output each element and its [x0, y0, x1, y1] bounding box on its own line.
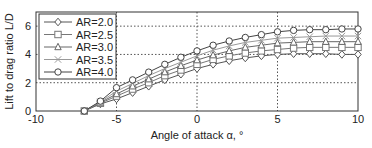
- circle-marker-icon: [55, 69, 61, 75]
- square-marker-icon: [55, 31, 61, 37]
- x-tick-label: 5: [274, 113, 280, 125]
- square-marker-icon: [274, 46, 280, 52]
- circle-marker-icon: [274, 29, 280, 35]
- x-tick-label: -5: [112, 113, 122, 125]
- circle-marker-icon: [81, 108, 87, 114]
- legend: AR=2.0AR=2.5AR=3.0AR=3.5AR=4.0: [39, 14, 116, 79]
- square-marker-icon: [339, 44, 345, 50]
- circle-marker-icon: [210, 42, 216, 48]
- legend-label: AR=3.0: [76, 41, 113, 53]
- square-marker-icon: [242, 50, 248, 56]
- y-tick-label: 0: [25, 105, 31, 117]
- circle-marker-icon: [113, 84, 119, 90]
- y-tick-label: 2: [25, 77, 31, 89]
- circle-marker-icon: [178, 54, 184, 60]
- square-marker-icon: [258, 48, 264, 54]
- circle-marker-icon: [162, 61, 168, 67]
- legend-label: AR=4.0: [76, 66, 113, 78]
- lift-drag-chart: -10-505100246Angle of attack α, °Lift to…: [0, 0, 372, 148]
- legend-label: AR=2.0: [76, 16, 113, 28]
- x-tick-label: 0: [194, 113, 200, 125]
- circle-marker-icon: [355, 26, 361, 32]
- y-tick-label: 4: [25, 48, 31, 60]
- x-axis-label: Angle of attack α, °: [151, 129, 244, 141]
- circle-marker-icon: [226, 38, 232, 44]
- circle-marker-icon: [290, 27, 296, 33]
- circle-marker-icon: [323, 26, 329, 32]
- square-marker-icon: [307, 44, 313, 50]
- legend-label: AR=2.5: [76, 29, 113, 41]
- x-tick-label: 10: [352, 113, 364, 125]
- circle-marker-icon: [129, 77, 135, 83]
- square-marker-icon: [323, 44, 329, 50]
- square-marker-icon: [355, 44, 361, 50]
- y-axis-label: Lift to drag ratio L/D: [3, 13, 15, 110]
- circle-marker-icon: [194, 48, 200, 54]
- y-tick-label: 6: [25, 20, 31, 32]
- circle-marker-icon: [97, 98, 103, 104]
- circle-marker-icon: [339, 26, 345, 32]
- legend-label: AR=3.5: [76, 54, 113, 66]
- circle-marker-icon: [258, 31, 264, 37]
- circle-marker-icon: [242, 34, 248, 40]
- square-marker-icon: [290, 45, 296, 51]
- circle-marker-icon: [307, 26, 313, 32]
- circle-marker-icon: [146, 69, 152, 75]
